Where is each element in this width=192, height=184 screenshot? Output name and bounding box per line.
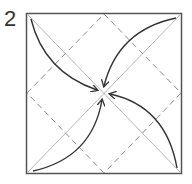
fold-arrow-bottom-right: [110, 94, 177, 168]
fold-diagram: [0, 0, 192, 184]
fold-arrow-top-right: [104, 18, 176, 86]
